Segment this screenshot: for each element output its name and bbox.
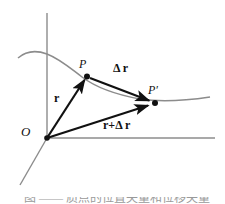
vector-delta-r xyxy=(90,78,149,101)
point-P xyxy=(84,74,90,80)
point-P-prime xyxy=(152,100,158,106)
z-axis xyxy=(20,138,47,185)
vector-diagram xyxy=(0,0,225,204)
axes-group xyxy=(20,13,215,185)
label-vector-r: r xyxy=(54,92,59,104)
vector-r-plus-delta-r xyxy=(47,106,148,139)
label-vector-delta-r: Δ r xyxy=(113,62,128,74)
vector-r xyxy=(47,80,85,138)
figure-root: O P P′ r Δ r r+Δ r 图 —— 质点的位置矢量和位移矢量 xyxy=(0,0,225,204)
label-point-p: P xyxy=(79,58,86,70)
origin-point xyxy=(44,135,50,141)
figure-caption-strip: 图 —— 质点的位置矢量和位移矢量 xyxy=(0,197,225,204)
figure-caption: 图 —— 质点的位置矢量和位移矢量 xyxy=(24,197,210,204)
label-point-p-prime: P′ xyxy=(148,84,158,96)
label-origin: O xyxy=(21,125,30,138)
label-vector-r-plus-delta-r: r+Δ r xyxy=(103,119,130,131)
